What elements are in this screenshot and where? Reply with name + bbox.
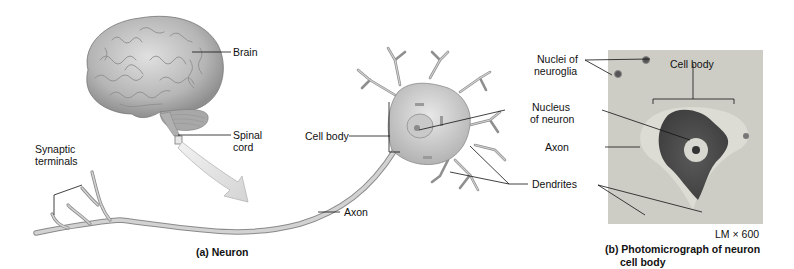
label-synaptic-1: Synaptic	[35, 143, 75, 155]
label-spinal-cord-1: Spinal	[233, 129, 262, 141]
label-axon: Axon	[344, 206, 368, 218]
brain-illustration	[87, 16, 224, 144]
magnification: LM × 600	[715, 228, 759, 240]
photomicrograph	[608, 50, 763, 224]
label-nuclei-neuroglia-1: Nuclei of	[537, 53, 578, 65]
label-cell-body: Cell body	[305, 130, 349, 142]
axon-illustration	[36, 150, 395, 233]
label-brain: Brain	[233, 46, 258, 58]
label-dendrites: Dendrites	[532, 178, 577, 190]
label-nucleus-2: of neuron	[530, 113, 574, 125]
caption-b-1: (b) Photomicrograph of neuron	[605, 243, 760, 255]
caption-a: (a) Neuron	[196, 246, 249, 258]
label-cell-body-b: Cell body	[670, 58, 714, 70]
caption-b-2: cell body	[620, 256, 666, 268]
label-nuclei-neuroglia-2: neuroglia	[534, 65, 577, 77]
label-nucleus-1: Nucleus	[532, 101, 570, 113]
nucleus	[407, 114, 433, 138]
label-spinal-cord-2: cord	[233, 141, 253, 153]
label-synaptic-2: terminals	[35, 155, 78, 167]
label-axon-b: Axon	[545, 141, 569, 153]
